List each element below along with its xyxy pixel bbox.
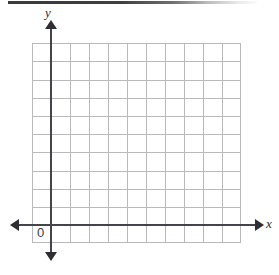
x-axis-left-arrow-icon	[10, 219, 19, 231]
grid-horizontal-line	[32, 61, 241, 62]
grid-vertical-line	[32, 43, 33, 243]
grid-vertical-line	[70, 43, 71, 243]
grid-horizontal-line	[32, 152, 241, 153]
y-axis-label: y	[45, 6, 51, 19]
grid-horizontal-line	[32, 43, 241, 44]
grid-horizontal-line	[32, 80, 241, 81]
grid-lines	[32, 43, 241, 243]
grid-vertical-line	[127, 43, 128, 243]
grid-vertical-line	[240, 43, 241, 243]
grid-horizontal-line	[32, 207, 241, 208]
grid-vertical-line	[184, 43, 185, 243]
grid-vertical-line	[89, 43, 90, 243]
grid-horizontal-line	[32, 116, 241, 117]
grid-horizontal-line	[32, 98, 241, 99]
grid-horizontal-line	[32, 242, 241, 243]
scan-artifact-band	[8, 1, 258, 4]
y-axis-line	[50, 22, 52, 260]
grid-vertical-line	[165, 43, 166, 243]
y-axis-up-arrow-icon	[45, 20, 57, 29]
y-axis-down-arrow-icon	[45, 252, 57, 261]
origin-label: 0	[37, 226, 44, 239]
grid-horizontal-line	[32, 134, 241, 135]
x-axis-right-arrow-icon	[255, 219, 264, 231]
grid-vertical-line	[146, 43, 147, 243]
coordinate-grid-figure: x y 0	[0, 0, 279, 275]
grid-vertical-line	[203, 43, 204, 243]
grid-vertical-line	[222, 43, 223, 243]
grid-vertical-line	[108, 43, 109, 243]
grid-horizontal-line	[32, 189, 241, 190]
grid-horizontal-line	[32, 171, 241, 172]
x-axis-label: x	[266, 217, 272, 230]
